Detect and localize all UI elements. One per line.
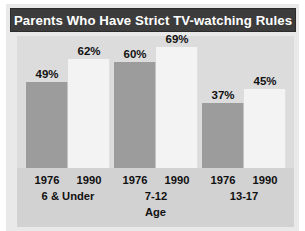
bars-layer: 49% 62% 60% 69% 37% 45%	[17, 36, 294, 168]
bar-1990-7-12[interactable]	[156, 47, 198, 168]
chart-title: Parents Who Have Strict TV-watching Rule…	[14, 13, 292, 28]
bar-value-1976-13-17: 37%	[197, 89, 249, 101]
bar-group-7-12: 60% 69%	[114, 36, 198, 168]
bar-1990-13-17[interactable]	[244, 89, 286, 168]
bar-value-1990-13-17: 45%	[239, 75, 291, 87]
bar-value-1976-6-and-under: 49%	[21, 68, 73, 80]
chart-title-bar: Parents Who Have Strict TV-watching Rule…	[10, 8, 296, 32]
bar-1976-13-17[interactable]	[202, 103, 244, 168]
tick-label-1990-group3: 1990	[239, 174, 291, 186]
chart-figure: Parents Who Have Strict TV-watching Rule…	[0, 0, 305, 231]
bar-value-1976-7-12: 60%	[109, 48, 161, 60]
bar-value-1990-6-and-under: 62%	[63, 45, 115, 57]
group-label-13-17: 13-17	[189, 190, 299, 202]
bar-group-13-17: 37% 45%	[202, 36, 286, 168]
bar-value-1990-7-12: 69%	[151, 33, 203, 45]
bar-1976-6-and-under[interactable]	[26, 82, 68, 168]
axis-band: 1976 1990 1976 1990 1976 1990 6 & Under …	[17, 168, 294, 227]
x-axis-title: Age	[17, 206, 294, 218]
bar-group-6-and-under: 49% 62%	[26, 36, 110, 168]
bar-1990-6-and-under[interactable]	[68, 59, 110, 168]
tick-label-1990-group2: 1990	[151, 174, 203, 186]
tick-label-1990-group1: 1990	[63, 174, 115, 186]
bar-1976-7-12[interactable]	[114, 62, 156, 168]
